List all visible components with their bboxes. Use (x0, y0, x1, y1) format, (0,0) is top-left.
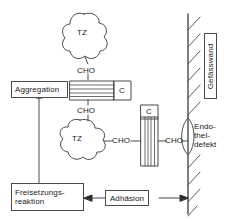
collagen-horizontal-rect (70, 81, 114, 100)
adhesion-box[interactable]: Adhäsion (105, 190, 149, 206)
diagram-canvas: TZ TZ CHO CHO CHO CHO C C Gefässwand End… (0, 0, 234, 221)
collagen-horizontal-label: C (119, 86, 125, 95)
endothelial-defect-line-1: Endo- (194, 122, 216, 131)
platelet-top-label: TZ (77, 28, 87, 37)
platelet-bottom-label: TZ (72, 134, 82, 143)
cho-left-label: CHO (112, 136, 130, 145)
vessel-wall-hatching (188, 17, 200, 216)
vessel-wall-label: Gefässwand (206, 43, 215, 88)
cho-top-label: CHO (77, 66, 95, 75)
arrow-adhesion-to-release-head (84, 195, 92, 201)
collagen-vertical-hatching (145, 117, 155, 166)
release-reaction-line-2: reaktion (15, 197, 44, 206)
cho-right-label: CHO (165, 136, 183, 145)
vessel-wall-box: Gefässwand (204, 33, 217, 99)
endothelial-defect-label-group: Endo- thel- defekt (194, 122, 216, 149)
collagen-vertical-label: C (146, 107, 152, 116)
release-reaction-box[interactable]: Freisetzungs- reaktion (11, 183, 84, 211)
endothelial-defect-line-3: defekt (194, 140, 216, 149)
cho-mid-label: CHO (77, 106, 95, 115)
platelet-bottom-blob (60, 119, 105, 159)
endothelial-defect-line-2: thel- (194, 131, 216, 140)
aggregation-label: Aggregation (15, 85, 59, 94)
adhesion-label: Adhäsion (110, 194, 144, 203)
release-reaction-line-1: Freisetzungs- (15, 188, 65, 197)
arrow-wall-to-adhesion-head (180, 195, 188, 201)
collagen-horizontal-hatching (70, 85, 114, 97)
collagen-vertical-rect (141, 117, 158, 166)
aggregation-box[interactable]: Aggregation (11, 81, 68, 98)
